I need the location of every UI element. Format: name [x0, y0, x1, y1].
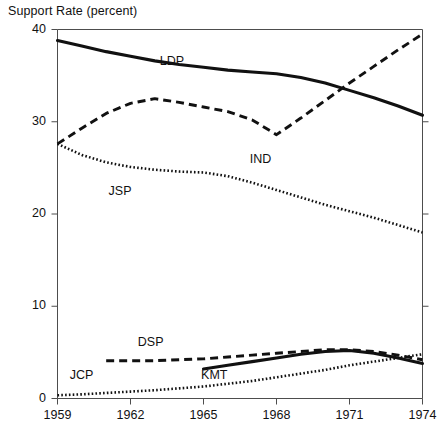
- series-label-ind: IND: [250, 152, 272, 166]
- x-tick-label: 1968: [247, 408, 307, 422]
- x-tick-label: 1962: [101, 408, 161, 422]
- series-line-kmt: [204, 351, 423, 369]
- series-line-ldp: [58, 41, 423, 116]
- y-tick-label: 30: [12, 114, 46, 128]
- chart-figure: Support Rate (percent) 010203040 1959196…: [0, 0, 437, 429]
- y-tick-label: 40: [12, 22, 46, 36]
- y-tick-label: 0: [12, 391, 46, 405]
- series-label-kmt: KMT: [201, 368, 227, 382]
- series-label-jsp: JSP: [109, 184, 132, 198]
- plot-frame: [58, 30, 423, 399]
- data-lines: [58, 34, 423, 395]
- series-label-jcp: JCP: [70, 368, 94, 382]
- x-tick-label: 1971: [320, 408, 380, 422]
- x-tick-label: 1974: [393, 408, 437, 422]
- x-tick-label: 1959: [28, 408, 88, 422]
- y-tick-label: 10: [12, 298, 46, 312]
- series-label-dsp: DSP: [138, 335, 164, 349]
- series-label-ldp: LDP: [160, 54, 184, 68]
- plot-area: [0, 0, 437, 429]
- y-tick-label: 20: [12, 206, 46, 220]
- x-tick-label: 1965: [174, 408, 234, 422]
- series-line-ind: [58, 34, 423, 144]
- axis-frame: [58, 30, 423, 399]
